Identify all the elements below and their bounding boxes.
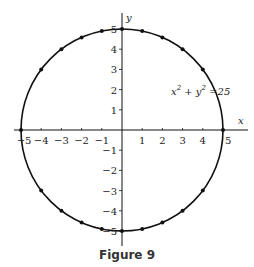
data-point: [181, 209, 185, 213]
x-tick-label: −5: [17, 135, 32, 146]
circle-plot: −5−4−3−2−112345−5−4−3−2−112345 x2 + y2 =…: [0, 0, 254, 267]
x-tick-label: 2: [159, 135, 165, 146]
data-point: [201, 189, 205, 193]
data-point: [80, 35, 84, 39]
data-point: [221, 128, 225, 132]
data-point: [39, 189, 43, 193]
y-tick-label: 4: [111, 44, 117, 55]
data-point: [140, 227, 144, 231]
data-point: [19, 128, 23, 132]
y-tick-label: 1: [111, 105, 117, 116]
axes: [14, 13, 248, 246]
data-point: [160, 35, 164, 39]
data-point: [39, 67, 43, 71]
x-axis-label: x: [238, 115, 244, 126]
y-tick-label: 3: [111, 64, 117, 75]
x-tick-label: −3: [54, 135, 69, 146]
y-tick-label: −2: [102, 165, 117, 176]
y-axis-label: y: [125, 12, 132, 23]
y-tick-label: 2: [111, 85, 117, 96]
y-tick-label: −5: [102, 226, 117, 237]
data-point: [120, 27, 124, 31]
x-tick-label: 5: [225, 135, 231, 146]
data-point: [201, 67, 205, 71]
data-point: [160, 221, 164, 225]
y-tick-label: 5: [111, 24, 117, 35]
data-point: [140, 29, 144, 33]
y-tick-label: −4: [102, 206, 117, 217]
data-point: [120, 229, 124, 233]
data-point: [59, 47, 63, 51]
y-tick-label: −1: [102, 145, 117, 156]
x-tick-label: 1: [139, 135, 145, 146]
figure-caption: Figure 9: [0, 248, 254, 262]
x-tick-label: 4: [200, 135, 206, 146]
y-tick-label: −3: [102, 186, 117, 197]
data-point: [100, 29, 104, 33]
x-tick-label: −4: [34, 135, 49, 146]
equation-label: x2 + y2 =25: [171, 84, 230, 97]
data-point: [181, 47, 185, 51]
x-tick-label: 3: [179, 135, 185, 146]
data-point: [59, 209, 63, 213]
x-tick-label: −2: [74, 135, 89, 146]
data-point: [80, 221, 84, 225]
